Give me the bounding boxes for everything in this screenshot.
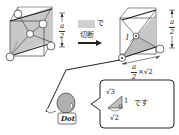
right-arrow-icon (96, 40, 102, 46)
triangle-leg-label: 1 (124, 98, 128, 105)
base-dimension-label: a 2 ×√2 (131, 64, 153, 81)
left-cube (6, 7, 66, 61)
right-dimension-label: a 2 (169, 19, 175, 36)
blank-suffix-label: で (97, 20, 104, 27)
vertex-circle (14, 10, 22, 18)
character-hand (46, 108, 56, 113)
action-label: 切断 (80, 32, 94, 39)
character-name-label: Dot (61, 115, 75, 122)
triangle-hypotenuse-label: √3 (106, 89, 115, 96)
vertex-circle (6, 53, 14, 61)
diagonal-label: l (126, 34, 129, 42)
vertex-circle (156, 45, 164, 53)
blank-box (78, 20, 95, 28)
left-dimension-label: a 2 (59, 23, 65, 40)
speech-bubble (91, 80, 174, 128)
vertex-circle (39, 20, 47, 28)
vertex-circle (47, 42, 55, 50)
center-circle (27, 31, 34, 38)
triangle-base-label: √2 (110, 115, 119, 122)
character-head (57, 93, 75, 113)
desu-label: です (134, 100, 148, 107)
